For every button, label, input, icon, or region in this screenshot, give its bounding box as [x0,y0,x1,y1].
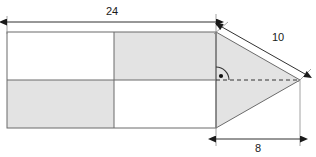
dimension-label-24: 24 [106,5,118,17]
quadrant-top-right-shaded [114,32,216,80]
quadrant-bottom-left-shaded [7,80,114,128]
angle-vertex-dot-icon [219,74,223,78]
dimension-base-8: 8 [216,139,300,154]
geometry-diagram: 24 10 8 [0,0,316,157]
dimension-label-10: 10 [272,31,284,43]
geometry-figure: 24 10 8 [0,0,316,157]
dimension-width-24: 24 [7,5,216,22]
dimension-label-8: 8 [255,142,261,154]
